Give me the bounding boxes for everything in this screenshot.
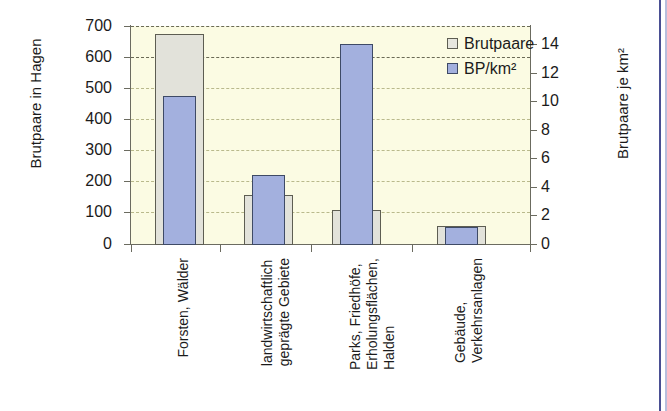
y-axis-left-tick <box>124 119 131 120</box>
gridline <box>131 26 530 27</box>
x-axis-tick <box>530 244 531 252</box>
y-axis-right-tick-label: 12 <box>541 65 559 81</box>
y-axis-left-tick-label: 200 <box>85 173 112 189</box>
y-axis-right-tick <box>530 215 537 216</box>
y-axis-left-tick <box>124 212 131 213</box>
y-axis-right-tick <box>530 244 537 245</box>
y-axis-right-tick <box>530 130 537 131</box>
legend-item-bp-per-km2[interactable]: BP/km² <box>447 56 534 81</box>
y-axis-right-tick-label: 10 <box>541 93 559 109</box>
category-label-text: Parks, Friedhöfe, Erholungsflächen, Hald… <box>347 258 398 370</box>
y-axis-left-tick-label: 700 <box>85 18 112 34</box>
bar-bp-per-km2-group-1 <box>252 175 285 245</box>
y-axis-right-title: Brutpaare je km² <box>614 4 631 204</box>
y-axis-left-tick-label: 600 <box>85 49 112 65</box>
y-axis-left-tick-label: 0 <box>103 236 112 252</box>
y-axis-left-tick <box>124 88 131 89</box>
bar-bp-per-km2-group-0 <box>163 96 196 245</box>
y-axis-right-tick-label: 8 <box>541 122 550 138</box>
y-axis-left-tick-label: 100 <box>85 204 112 220</box>
chart-legend: Brutpaare BP/km² <box>447 31 534 81</box>
bar-bp-per-km2-group-3 <box>445 227 478 245</box>
y-axis-right-tick-label: 2 <box>541 207 550 223</box>
y-axis-left-tick <box>124 181 131 182</box>
y-axis-right-tick-label: 6 <box>541 150 550 166</box>
y-axis-right-tick-label: 4 <box>541 179 550 195</box>
legend-swatch-icon-bp-per-km2 <box>447 63 458 74</box>
x-axis-tick <box>311 244 312 252</box>
y-axis-right-tick <box>530 101 537 102</box>
y-axis-left-tick-label: 400 <box>85 111 112 127</box>
y-axis-right-tick <box>530 187 537 188</box>
y-axis-right-tick <box>530 158 537 159</box>
category-label-text: Gebäude, Verkehrsanlagen <box>452 258 486 363</box>
y-axis-left-tick <box>124 26 131 27</box>
legend-item-brutpaare[interactable]: Brutpaare <box>447 31 534 56</box>
chart-figure: Brutpaare in Hagen Brutpaare je km² 7006… <box>0 0 659 411</box>
legend-swatch-icon-brutpaare <box>447 38 458 49</box>
y-axis-left-tick-label: 500 <box>85 80 112 96</box>
y-axis-left-tick <box>124 150 131 151</box>
x-axis-tick <box>220 244 221 252</box>
category-label-text: landwirtschaftlich geprägte Gebiete <box>259 258 293 366</box>
x-axis-tick <box>412 244 413 252</box>
y-axis-left-title: Brutpaare in Hagen <box>27 4 44 204</box>
y-axis-left-tick <box>124 244 131 245</box>
page-edge-decoration-right <box>659 0 661 411</box>
y-axis-left-tick <box>124 57 131 58</box>
bar-bp-per-km2-group-2 <box>340 44 373 245</box>
legend-label-brutpaare: Brutpaare <box>464 35 534 53</box>
y-axis-left-tick-label: 300 <box>85 142 112 158</box>
y-axis-right-tick-label: 14 <box>541 36 559 52</box>
legend-label-bp-per-km2: BP/km² <box>464 60 516 78</box>
y-axis-right-tick-label: 0 <box>541 236 550 252</box>
x-axis-tick <box>131 244 132 252</box>
category-label-text: Forsten, Wälder <box>175 258 192 358</box>
